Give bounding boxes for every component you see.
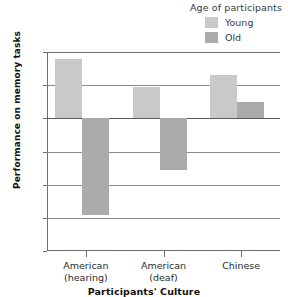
- legend-label-old: Old: [225, 32, 241, 43]
- x-category-line: American: [119, 260, 209, 272]
- y-tick-mark--3: [43, 218, 47, 219]
- legend-title: Age of participants: [190, 2, 282, 13]
- bar-young-1: [133, 87, 160, 119]
- x-category-line: (deaf): [119, 272, 209, 284]
- gridline-1: [47, 85, 280, 86]
- x-tick-mark-2: [241, 251, 242, 257]
- legend-label-young: Young: [225, 17, 253, 28]
- plot-area: 210-1-2-3-4 American(hearing)American(de…: [47, 52, 280, 251]
- y-tick-mark-0: [43, 118, 47, 119]
- bar-young-0: [55, 59, 82, 119]
- legend: Age of participants Young Old: [0, 0, 288, 50]
- x-category-line: (hearing): [41, 272, 131, 284]
- x-category-label-0: American(hearing): [41, 260, 131, 283]
- y-tick-mark-1: [43, 85, 47, 86]
- y-tick-mark-2: [43, 52, 47, 53]
- x-category-line: Chinese: [196, 260, 286, 272]
- legend-swatch-old: [205, 32, 218, 43]
- bar-old-2: [237, 102, 264, 118]
- x-tick-mark-0: [86, 251, 87, 257]
- legend-swatch-young: [205, 17, 218, 28]
- y-tick-mark--4: [43, 251, 47, 252]
- y-tick-mark--1: [43, 152, 47, 153]
- legend-item-old: Old: [205, 32, 241, 43]
- x-category-label-1: American(deaf): [119, 260, 209, 283]
- bar-old-1: [160, 118, 187, 169]
- x-category-label-2: Chinese: [196, 260, 286, 272]
- x-tick-mark-1: [164, 251, 165, 257]
- legend-item-young: Young: [205, 17, 253, 28]
- bar-old-0: [82, 118, 109, 214]
- x-category-line: American: [41, 260, 131, 272]
- bar-young-2: [210, 75, 237, 118]
- x-axis-title: Participants' Culture: [0, 286, 288, 297]
- gridline--3: [47, 218, 280, 219]
- y-axis-title: Performance on memory tasks: [12, 30, 22, 190]
- y-tick-mark--2: [43, 185, 47, 186]
